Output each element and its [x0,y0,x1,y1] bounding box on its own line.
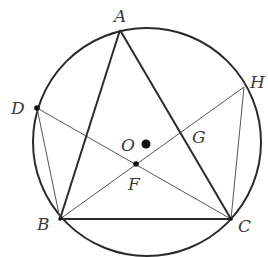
label-g: G [192,127,206,147]
label-d: D [10,98,25,118]
point-d-dot [34,105,40,111]
label-a: A [112,6,126,26]
segment-hc [231,87,244,219]
label-c: C [238,216,251,236]
label-f: F [127,174,141,194]
label-b: B [36,214,50,234]
point-f-dot [133,161,139,167]
segment-db [37,108,60,219]
point-b-dot [58,217,62,221]
center-o-dot [142,140,151,149]
label-o: O [121,135,135,155]
point-c-dot [229,217,233,221]
geometry-diagram: A B C D H F G O [0,0,268,257]
label-h: H [249,72,266,92]
segment-bh [60,87,244,219]
